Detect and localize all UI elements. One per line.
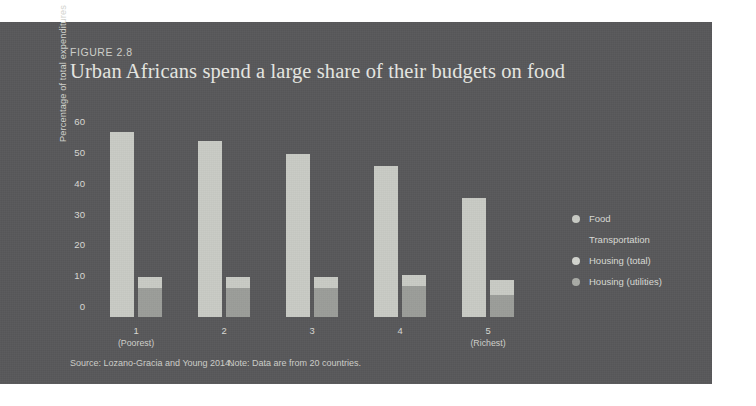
x-axis-label: 3 bbox=[309, 325, 314, 337]
y-axis-tick-60: 60 bbox=[74, 116, 85, 127]
bar-food bbox=[286, 154, 310, 317]
source-note: Source: Lozano-Gracia and Young 2014. bbox=[70, 358, 233, 368]
bar-group: 5(Richest) bbox=[444, 132, 532, 317]
bar-group: 4 bbox=[356, 132, 444, 317]
x-axis-sublabel: (Poorest) bbox=[118, 337, 154, 349]
bar-group: 3 bbox=[268, 132, 356, 317]
legend-label: Housing (utilities) bbox=[589, 276, 662, 287]
y-axis-tick-20: 20 bbox=[74, 239, 85, 250]
legend-label: Transportation bbox=[589, 234, 650, 245]
bar-housing-utilities bbox=[314, 288, 338, 317]
x-axis-sublabel: (Richest) bbox=[470, 337, 505, 349]
bar-food bbox=[198, 141, 222, 317]
x-axis-label: 2 bbox=[221, 325, 226, 337]
bar-food bbox=[374, 166, 398, 317]
x-axis-label: 1(Poorest) bbox=[118, 325, 154, 349]
figure-panel: FIGURE 2.8 Urban Africans spend a large … bbox=[0, 22, 712, 384]
y-axis-tick-50: 50 bbox=[74, 146, 85, 157]
figure-number: FIGURE 2.8 bbox=[70, 46, 133, 58]
figure-title: Urban Africans spend a large share of th… bbox=[70, 60, 565, 83]
chart-legend: FoodTransportationHousing (total)Housing… bbox=[572, 208, 662, 292]
bar-group: 1(Poorest) bbox=[92, 132, 180, 317]
legend-label: Housing (total) bbox=[589, 255, 651, 266]
legend-swatch-icon bbox=[572, 215, 580, 223]
x-axis-label: 5(Richest) bbox=[470, 325, 505, 349]
legend-label: Food bbox=[589, 213, 611, 224]
bar-food bbox=[462, 198, 486, 317]
bar-housing-utilities bbox=[226, 288, 250, 317]
legend-swatch-icon bbox=[572, 278, 580, 286]
y-axis-title: Percentage of total expenditures bbox=[58, 0, 72, 142]
legend-swatch-icon bbox=[572, 236, 580, 244]
bar-group: 2 bbox=[180, 132, 268, 317]
bar-housing-utilities bbox=[138, 288, 162, 317]
legend-item: Housing (total) bbox=[572, 250, 662, 271]
plot-area: 01020304050601(Poorest)2345(Richest) bbox=[92, 132, 532, 317]
y-axis-tick-0: 0 bbox=[80, 301, 85, 312]
legend-item: Housing (utilities) bbox=[572, 271, 662, 292]
legend-swatch-icon bbox=[572, 257, 580, 265]
data-note: Note: Data are from 20 countries. bbox=[228, 358, 361, 368]
y-axis-tick-10: 10 bbox=[74, 270, 85, 281]
y-axis-tick-40: 40 bbox=[74, 177, 85, 188]
bar-food bbox=[110, 132, 134, 317]
legend-item: Transportation bbox=[572, 229, 662, 250]
x-axis-label: 4 bbox=[397, 325, 402, 337]
y-axis-tick-30: 30 bbox=[74, 208, 85, 219]
legend-item: Food bbox=[572, 208, 662, 229]
bar-housing-utilities bbox=[490, 295, 514, 317]
bar-housing-utilities bbox=[402, 286, 426, 317]
